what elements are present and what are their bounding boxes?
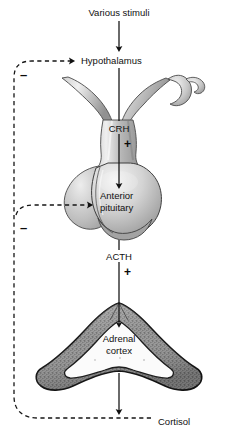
- label-hypothalamus: Hypothalamus: [81, 55, 142, 66]
- label-anterior-pituitary-line1: Anterior: [100, 190, 133, 202]
- diagram-canvas: Various stimuli Hypothalamus CRH Anterio…: [0, 0, 229, 433]
- label-cortisol: Cortisol: [158, 416, 190, 427]
- label-crh: CRH: [109, 123, 130, 134]
- label-anterior-pituitary-line2: pituitary: [100, 202, 133, 214]
- label-adrenal-cortex: Adrenal cortex: [103, 333, 136, 356]
- label-various-stimuli: Various stimuli: [88, 7, 149, 18]
- plus-sign-crh: +: [124, 138, 131, 150]
- hypothalamus-infundibulum-illustration: [62, 75, 205, 170]
- minus-sign-pituitary-feedback: –: [20, 221, 27, 234]
- plus-sign-acth: +: [124, 266, 131, 278]
- label-anterior-pituitary: Anterior pituitary: [100, 190, 133, 213]
- label-acth: ACTH: [106, 251, 132, 262]
- label-adrenal-cortex-line2: cortex: [103, 345, 136, 357]
- minus-sign-hypothalamus-feedback: –: [20, 68, 27, 81]
- label-adrenal-cortex-line1: Adrenal: [103, 333, 136, 345]
